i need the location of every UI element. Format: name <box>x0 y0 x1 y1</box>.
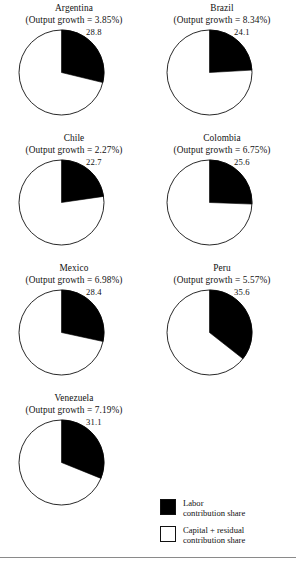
pie-panel-chile: Chile(Output growth = 2.27%)22.7 <box>0 130 148 260</box>
legend-label-capital-line2: contribution share <box>183 535 245 545</box>
pie-chart-svg <box>18 286 112 380</box>
pie-graphic-wrapper: 22.7 <box>0 156 148 260</box>
pie-panel-brazil: Brazil(Output growth = 8.34%)24.1 <box>148 0 296 130</box>
pie-graphic-wrapper: 25.6 <box>148 156 296 260</box>
pie-panel-peru: Peru(Output growth = 5.57%)35.6 <box>148 260 296 390</box>
legend-item-capital-residual: Capital + residual contribution share <box>160 525 245 545</box>
pie-chart-svg <box>166 286 260 380</box>
legend-label-labor: Labor contribution share <box>183 498 245 518</box>
legend-label-labor-line2: contribution share <box>183 508 245 518</box>
pie-value-label: 28.8 <box>86 27 102 37</box>
pie-value-label: 35.6 <box>234 287 250 297</box>
pie-subtitle-output-growth: (Output growth = 7.19%) <box>0 405 148 417</box>
pie-graphic-wrapper: 28.4 <box>0 286 148 390</box>
pie-title: Colombia <box>148 130 296 145</box>
pie-subtitle-output-growth: (Output growth = 2.27%) <box>0 145 148 157</box>
pie-title: Chile <box>0 130 148 145</box>
pie-title: Venezuela <box>0 390 148 405</box>
legend-swatch-capital-residual-icon <box>160 526 176 542</box>
pie-graphic-wrapper: 24.1 <box>148 26 296 130</box>
pie-value-label: 31.1 <box>86 417 102 427</box>
legend-swatch-labor-icon <box>160 499 176 515</box>
pie-panel-mexico: Mexico(Output growth = 6.98%)28.4 <box>0 260 148 390</box>
pie-chart-svg <box>18 156 112 250</box>
pie-subtitle-output-growth: (Output growth = 8.34%) <box>148 15 296 27</box>
pie-title: Peru <box>148 260 296 275</box>
pie-graphic-wrapper: 28.8 <box>0 26 148 130</box>
legend-label-labor-line1: Labor <box>183 498 245 508</box>
page-bottom-rule <box>0 557 296 558</box>
pie-panel-venezuela: Venezuela(Output growth = 7.19%)31.1 <box>0 390 148 520</box>
pie-subtitle-output-growth: (Output growth = 6.75%) <box>148 145 296 157</box>
pie-value-label: 22.7 <box>86 157 102 167</box>
pie-graphic-wrapper: 35.6 <box>148 286 296 390</box>
legend-label-capital-line1: Capital + residual <box>183 525 245 535</box>
pie-panel-argentina: Argentina(Output growth = 3.85%)28.8 <box>0 0 148 130</box>
pie-value-label: 25.6 <box>234 157 250 167</box>
legend-label-capital-residual: Capital + residual contribution share <box>183 525 245 545</box>
pie-chart-figure: Argentina(Output growth = 3.85%)28.8 Bra… <box>0 0 296 565</box>
pie-chart-svg <box>166 156 260 250</box>
pie-title: Mexico <box>0 260 148 275</box>
pie-subtitle-output-growth: (Output growth = 3.85%) <box>0 15 148 27</box>
pie-slice-labor <box>62 290 105 342</box>
pie-chart-svg <box>166 26 260 120</box>
pie-subtitle-output-growth: (Output growth = 5.57%) <box>148 275 296 287</box>
legend-item-labor: Labor contribution share <box>160 498 245 518</box>
pie-chart-svg <box>18 26 112 120</box>
pie-value-label: 24.1 <box>234 27 250 37</box>
chart-legend: Labor contribution share Capital + resid… <box>160 495 296 551</box>
pie-chart-svg <box>18 416 112 510</box>
pie-title: Brazil <box>148 0 296 15</box>
pie-graphic-wrapper: 31.1 <box>0 416 148 520</box>
pie-title: Argentina <box>0 0 148 15</box>
pie-value-label: 28.4 <box>86 287 102 297</box>
pie-subtitle-output-growth: (Output growth = 6.98%) <box>0 275 148 287</box>
pie-panel-colombia: Colombia(Output growth = 6.75%)25.6 <box>148 130 296 260</box>
